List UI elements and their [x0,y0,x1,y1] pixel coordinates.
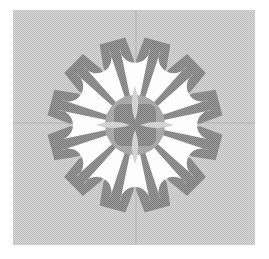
rosette-illustration [0,0,269,259]
ornament-canvas [0,0,269,259]
